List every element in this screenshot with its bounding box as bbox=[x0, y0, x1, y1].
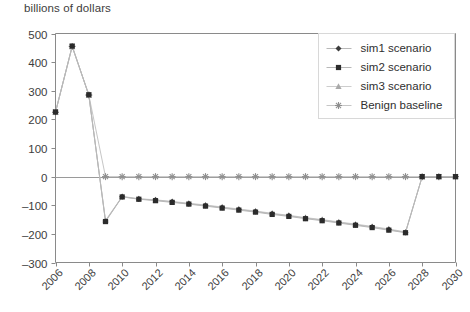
x-axis-tick-label: 2010 bbox=[105, 266, 131, 292]
y-axis-tick-label: 500 bbox=[28, 29, 47, 41]
x-axis-tick-label: 2030 bbox=[439, 266, 465, 292]
chart-container: billions of dollars –300–200–10001002003… bbox=[0, 0, 470, 312]
x-axis-tick-label: 2014 bbox=[172, 266, 198, 292]
x-axis-tick-label: 2020 bbox=[272, 266, 298, 292]
y-axis-tick-label: 300 bbox=[28, 86, 47, 98]
legend-item-label: sim3 scenario bbox=[361, 80, 432, 92]
legend-item-label: sim1 scenario bbox=[361, 42, 432, 54]
y-axis-tick-label: 0 bbox=[41, 172, 47, 184]
chart-legend: sim1 scenariosim2 scenariosim3 scenarioB… bbox=[319, 34, 455, 119]
y-axis-tick-label: –100 bbox=[22, 200, 48, 212]
x-axis-tick-label: 2022 bbox=[305, 266, 331, 292]
x-axis-tick-label: 2012 bbox=[139, 266, 165, 292]
x-axis-tick-label: 2018 bbox=[239, 266, 265, 292]
x-axis-tick-label: 2006 bbox=[39, 266, 65, 292]
x-axis-tick-label: 2016 bbox=[205, 266, 231, 292]
x-axis-tick-label: 2024 bbox=[339, 266, 365, 292]
y-axis-tick-label: 200 bbox=[28, 114, 47, 126]
y-axis-tick-label: 100 bbox=[28, 143, 47, 155]
y-axis-tick-label: –200 bbox=[22, 229, 48, 241]
y-axis-tick-label: –300 bbox=[22, 258, 48, 270]
legend-item-label: sim2 scenario bbox=[361, 61, 432, 73]
x-axis-tick-label: 2008 bbox=[72, 266, 98, 292]
legend-item-label: Benign baseline bbox=[361, 99, 443, 111]
x-axis-tick-label: 2028 bbox=[405, 266, 431, 292]
y-axis-tick-label: 400 bbox=[28, 57, 47, 69]
x-axis-tick-label: 2026 bbox=[372, 266, 398, 292]
line-chart-plot: –300–200–1000100200300400500200620082010… bbox=[0, 0, 470, 312]
